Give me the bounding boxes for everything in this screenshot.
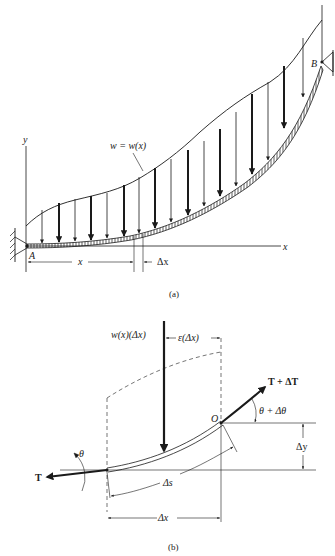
tension-left-label: T [35,472,42,483]
load-arrows [42,38,303,243]
tension-right-label: T + ΔT [268,376,298,387]
cable-diagram: y x A B w = w(x) [0,0,335,556]
figure-b-caption: (b) [168,542,179,552]
figure-a-caption: (a) [169,289,179,299]
point-o-label: O [211,413,218,424]
x-axis-label: x [282,241,288,252]
ds-tick-left [107,472,110,498]
support-b-label: B [311,58,317,69]
angle-left-label: θ [79,448,84,459]
load-curve-label: w = w(x) [110,140,147,152]
figure-b: w(x)(Δx) ε(Δx) O T + ΔT θ + Δθ T θ Δy [35,321,316,552]
load-label-leader [133,153,143,171]
dim-x-label: x [77,256,83,267]
angle-right-arc [252,399,256,422]
eps-label: ε(Δx) [178,332,200,344]
angle-right-label: θ + Δθ [259,405,286,416]
support-a-label: A [28,250,36,261]
ds-tick-right [223,425,237,452]
y-axis-label: y [22,134,28,145]
figure-a: y x A B w = w(x) [10,5,333,299]
ds-label: Δs [162,477,173,488]
dx-label: Δx [157,512,169,523]
ds-dim-left [111,483,160,496]
tension-left-arrow [47,470,107,477]
dim-dx-label: Δx [157,256,168,267]
cable [27,66,323,248]
resultant-load-label: w(x)(Δx) [111,329,146,341]
dy-label: Δy [296,441,307,452]
load-curve [26,20,322,226]
